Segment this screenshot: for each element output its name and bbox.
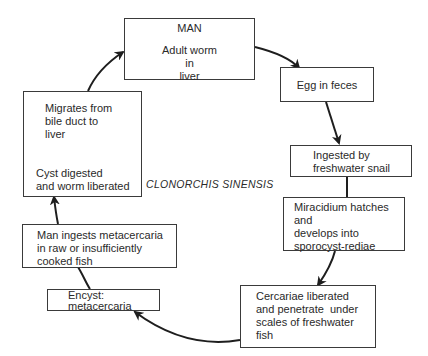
- arrow-miracidium-to-cercariae: [318, 251, 335, 285]
- stage-text: sporocyst-rediae: [294, 240, 404, 253]
- stage-text: Adult worm: [125, 44, 254, 57]
- stage-miracidium: Miracidium hatches and develops into spo…: [283, 197, 405, 251]
- stage-migrates: Migrates from bile duct to liver Cyst di…: [23, 91, 142, 197]
- stage-text: metacercaria: [68, 301, 159, 312]
- stage-text: fish: [256, 329, 375, 342]
- stage-text: bile duct to: [45, 115, 112, 128]
- arrow-egg-to-ingested: [326, 102, 339, 143]
- diagram-title: CLONORCHIS SINENSIS: [146, 178, 274, 190]
- stage-text: in raw or insufficiently: [37, 242, 176, 255]
- line-encyst-to-man-ingests: [78, 267, 90, 289]
- stage-man: MAN Adult worm in liver: [124, 18, 255, 80]
- stage-text: liver: [45, 128, 112, 141]
- stage-text: freshwater snail: [313, 162, 411, 175]
- stage-text: Cercariae liberated: [256, 290, 375, 303]
- stage-man-ingests: Man ingests metacercaria in raw or insuf…: [22, 224, 177, 268]
- stage-text: and penetrate under: [256, 303, 375, 316]
- arrow-man-ingests-to-migrates: [54, 197, 58, 224]
- arrow-cercariae-to-encyst: [135, 312, 240, 342]
- stage-text: and: [294, 214, 404, 227]
- stage-text: Ingested by: [313, 149, 411, 162]
- stage-text: Miracidium hatches: [294, 201, 404, 214]
- stage-heading: MAN: [125, 22, 254, 35]
- stage-text: scales of freshwater: [256, 316, 375, 329]
- stage-text: in: [125, 57, 254, 70]
- migrates-text: Migrates from bile duct to liver: [45, 102, 112, 141]
- stage-text: Migrates from: [45, 102, 112, 115]
- arrow-migrates-to-man: [88, 52, 123, 91]
- stage-text: liver: [125, 70, 254, 83]
- stage-text: and worm liberated: [36, 180, 130, 193]
- stage-text: Man ingests metacercaria: [37, 229, 176, 242]
- stage-encyst: Encyst: metacercaria: [47, 289, 160, 311]
- stage-text: cooked fish: [37, 255, 176, 268]
- stage-text: develops into: [294, 227, 404, 240]
- stage-text: Cyst digested: [36, 167, 130, 180]
- stage-egg: Egg in feces: [280, 67, 374, 102]
- cyst-text: Cyst digested and worm liberated: [36, 167, 130, 193]
- stage-cercariae: Cercariae liberated and penetrate under …: [240, 285, 376, 348]
- stage-text: Egg in feces: [281, 79, 373, 92]
- arrow-man-to-egg: [255, 47, 299, 68]
- stage-ingested: Ingested by freshwater snail: [290, 145, 412, 177]
